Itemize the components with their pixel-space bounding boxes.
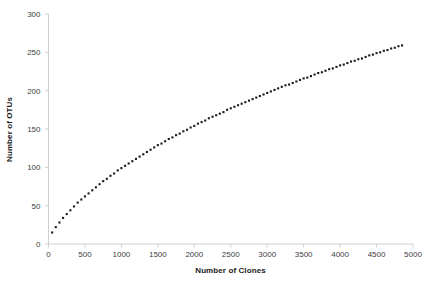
axis-lines xyxy=(49,14,414,244)
data-series-rarefaction xyxy=(51,44,403,233)
tick-marks xyxy=(45,14,413,248)
plot-area xyxy=(0,0,425,284)
rarefaction-chart: Number of OTUs Number of Clones 05010015… xyxy=(0,0,425,284)
